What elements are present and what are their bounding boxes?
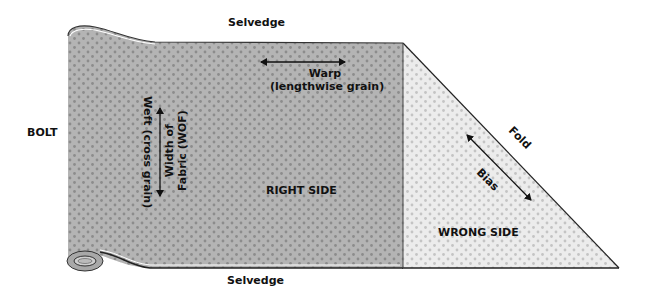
right-side-label: RIGHT SIDE	[266, 185, 337, 198]
bolt-label: BOLT	[27, 127, 57, 140]
wof-label: Width of Fabric (WOF)	[164, 96, 189, 206]
wof-label-line1: Width of	[164, 96, 177, 206]
fabric-grain-diagram	[0, 0, 649, 299]
wof-label-line2: Fabric (WOF)	[177, 96, 190, 206]
warp-label: Warp (lengthwise grain)	[270, 68, 380, 93]
right-side-panel	[68, 26, 403, 268]
warp-label-line1: Warp	[270, 68, 380, 81]
warp-label-line2: (lengthwise grain)	[270, 81, 380, 94]
selvedge-bottom-label: Selvedge	[227, 275, 284, 288]
selvedge-top-label: Selvedge	[228, 17, 285, 30]
weft-label: Weft (cross grain)	[141, 96, 154, 206]
bolt-roll-icon	[67, 251, 103, 271]
wrong-side-label: WRONG SIDE	[438, 227, 519, 240]
